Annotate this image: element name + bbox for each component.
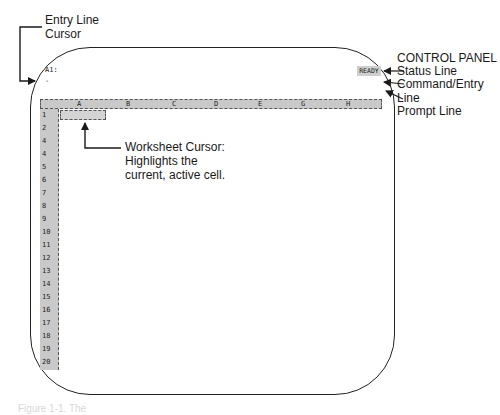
command-entry-line-label-line1: Command/Entry <box>397 78 484 91</box>
entry-line-cursor-label-line2: Cursor <box>45 28 81 41</box>
entry-line-cursor-label-line1: Entry Line <box>45 14 99 27</box>
worksheet-cursor-label-line2: Highlights the <box>125 155 198 168</box>
worksheet-cursor-label-line1: Worksheet Cursor: <box>125 141 225 154</box>
prompt-line-label: Prompt Line <box>397 105 462 118</box>
worksheet-cursor-label-line3: current, active cell. <box>125 169 225 182</box>
figure-caption: Figure 1-1. The <box>18 403 86 414</box>
